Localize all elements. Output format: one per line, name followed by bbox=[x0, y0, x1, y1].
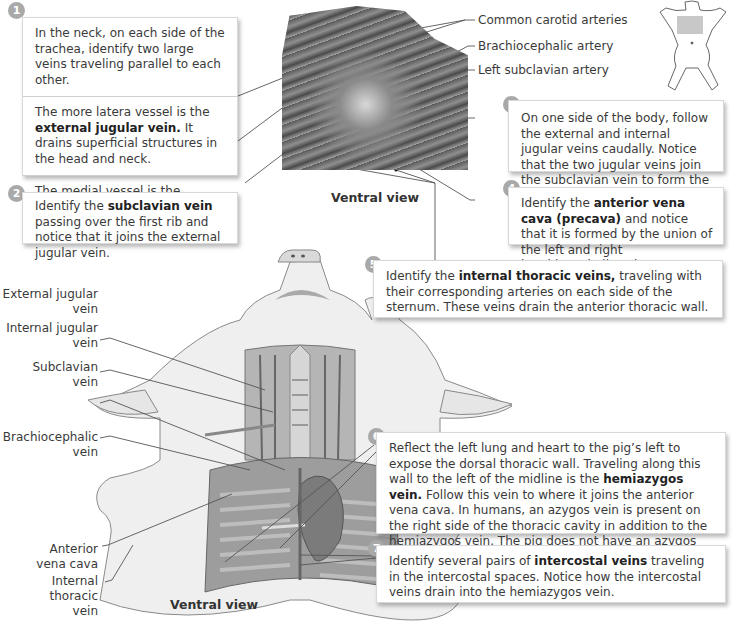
step-1-intro: In the neck, on each side of the trachea… bbox=[23, 18, 237, 96]
label-left-subclavian-artery: Left subclavian artery bbox=[478, 63, 609, 78]
step-7-box: Identify several pairs of intercostal ve… bbox=[376, 545, 726, 603]
step-1-box: In the neck, on each side of the trachea… bbox=[22, 17, 238, 176]
step-6-box: Reflect the left lung and heart to the p… bbox=[376, 432, 726, 534]
label-common-carotid-arteries: Common carotid arteries bbox=[478, 13, 628, 28]
orientation-pig-icon bbox=[660, 1, 726, 90]
label-subclavian-vein: Subclavianvein bbox=[0, 360, 98, 390]
label-internal-jugular-vein: Internal jugularvein bbox=[0, 321, 98, 351]
step-text: In the neck, on each side of the trachea… bbox=[35, 26, 227, 88]
step-4-box: Identify the anterior vena cava (precava… bbox=[508, 187, 724, 245]
label-brachiocephalic-artery: Brachiocephalic artery bbox=[478, 39, 613, 54]
step-3-box: On one side of the body, follow the exte… bbox=[508, 100, 724, 172]
label-external-jugular-vein: External jugularvein bbox=[0, 287, 98, 317]
step-5-box: Identify the internal thoracic veins, tr… bbox=[373, 260, 723, 318]
label-internal-thoracic-vein: Internal thoracicvein bbox=[0, 574, 98, 619]
label-brachiocephalic-vein: Brachiocephalicvein bbox=[0, 430, 98, 460]
photo-caption: Ventral view bbox=[331, 190, 419, 205]
step-2-box: Identify the subclavian vein passing ove… bbox=[22, 192, 238, 244]
step-1-external-jugular: The more latera vessel is the external j… bbox=[23, 96, 237, 175]
label-anterior-vena-cava: Anteriorvena cava bbox=[0, 542, 98, 572]
illustration-caption: Ventral view bbox=[170, 597, 258, 612]
